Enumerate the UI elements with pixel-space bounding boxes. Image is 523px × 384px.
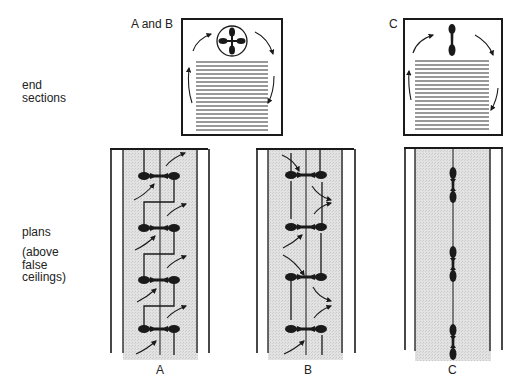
cross-fan-icon bbox=[217, 26, 247, 56]
end-section-ab bbox=[182, 19, 282, 135]
end-section-c bbox=[404, 19, 502, 135]
plan-b bbox=[256, 149, 355, 360]
diagram-canvas bbox=[0, 0, 523, 384]
plan-a bbox=[110, 149, 209, 360]
plan-c bbox=[404, 148, 503, 361]
